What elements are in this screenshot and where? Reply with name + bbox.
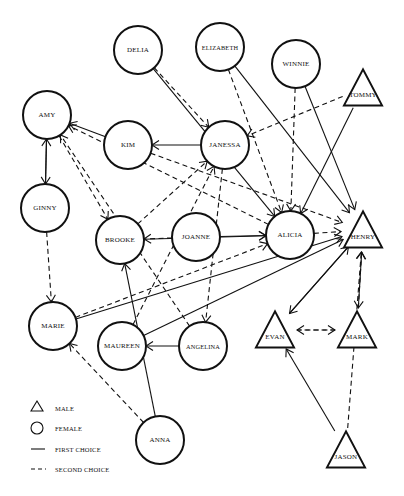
node-amy: AMY (23, 91, 71, 139)
legend-item-male: MALE (31, 401, 74, 412)
edge-ginny-to-marie (46, 232, 55, 302)
edge-alicia-to-henry (314, 227, 341, 236)
second-choice-line (47, 232, 52, 302)
node-maureen: MAUREEN (98, 322, 146, 370)
node-label: ANNA (149, 436, 170, 444)
edge-tommy-to-alicia (300, 108, 353, 214)
node-winnie: WINNIE (272, 40, 320, 88)
node-layer: DELIAELIZABETHWINNIETOMMYAMYKIMJANESSAGI… (21, 23, 382, 467)
node-label: KIM (121, 141, 136, 149)
node-delia: DELIA (114, 26, 162, 74)
node-label: BROOKE (105, 236, 135, 244)
node-angelina: ANGELINA (179, 322, 227, 370)
node-label: MARIE (41, 322, 65, 330)
node-label: JANESSA (209, 141, 240, 149)
node-tommy: TOMMY (344, 69, 382, 105)
node-henry: HENRY (344, 211, 382, 247)
node-label: MARK (346, 333, 368, 341)
edge-jason-to-evan (286, 349, 335, 431)
node-label: GINNY (33, 204, 57, 212)
node-label: EVAN (265, 333, 284, 341)
node-janessa: JANESSA (201, 121, 249, 169)
edge-tommy-to-janessa (247, 96, 342, 137)
node-evan: EVAN (256, 311, 294, 347)
sociogram-diagram: DELIAELIZABETHWINNIETOMMYAMYKIMJANESSAGI… (0, 0, 404, 496)
node-elizabeth: ELIZABETH (196, 23, 244, 71)
legend-label: MALE (55, 405, 74, 412)
node-label: JOANNE (182, 233, 210, 241)
node-ginny: GINNY (21, 184, 69, 232)
edge-janessa-to-kim (152, 141, 201, 150)
edge-delia-to-janessa (154, 68, 209, 128)
node-label: DELIA (127, 46, 149, 54)
node-label: HENRY (351, 233, 376, 241)
first-choice-line (46, 139, 47, 184)
node-mark: MARK (338, 311, 376, 347)
legend-label: FIRST CHOICE (55, 446, 101, 453)
node-label: TOMMY (349, 91, 377, 99)
second-choice-line (291, 88, 295, 211)
node-joanne: JOANNE (172, 213, 220, 261)
node-marie: MARIE (29, 302, 77, 350)
legend-item-second-choice: SECOND CHOICE (31, 466, 109, 473)
circle-icon (31, 422, 43, 434)
male-triangle-icon (338, 311, 376, 347)
node-alicia: ALICIA (266, 211, 314, 259)
legend-label: FEMALE (55, 425, 82, 432)
node-label: AMY (39, 111, 56, 119)
first-choice-line (144, 240, 344, 336)
second-choice-line (314, 232, 341, 234)
node-brooke: BROOKE (96, 216, 144, 264)
male-triangle-icon (344, 211, 382, 247)
node-anna: ANNA (136, 416, 184, 464)
first-choice-line (286, 349, 335, 431)
male-triangle-icon (256, 311, 294, 347)
node-label: ANGELINA (186, 343, 220, 350)
node-label: ELIZABETH (202, 44, 239, 51)
legend-item-first-choice: FIRST CHOICE (31, 446, 101, 453)
edge-winnie-to-alicia (287, 88, 296, 211)
legend-item-female: FEMALE (31, 422, 82, 434)
male-triangle-icon (344, 69, 382, 105)
edge-angelina-to-maureen (146, 342, 179, 351)
legend: MALE FEMALE FIRST CHOICE SECOND CHOICE (31, 401, 109, 473)
node-label: JASON (335, 453, 358, 461)
node-label: ALICIA (278, 231, 303, 239)
triangle-icon (31, 401, 43, 411)
legend-label: SECOND CHOICE (55, 466, 109, 473)
node-jason: JASON (327, 431, 365, 467)
node-label: MAUREEN (104, 342, 140, 350)
second-choice-line (247, 96, 342, 135)
node-label: WINNIE (283, 60, 310, 68)
second-choice-line (154, 68, 209, 128)
male-triangle-icon (327, 431, 365, 467)
node-kim: KIM (104, 121, 152, 169)
